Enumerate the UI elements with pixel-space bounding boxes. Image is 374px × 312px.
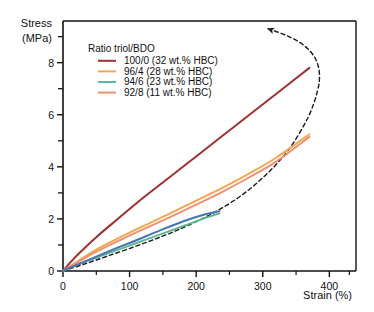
y-tick-label: 2 [48,213,54,225]
y-axis-title-line2: (MPa) [22,32,52,44]
series-curve-94-6-23-wt-hbc [63,213,219,271]
y-tick-label: 4 [48,161,54,173]
legend-title: Ratio triol/BDO [88,43,155,54]
y-axis-title-line1: Stress [21,17,53,29]
legend-label: 94/6 (23 wt.% HBC) [124,76,212,87]
stress-strain-chart: 024680100200300400Stress(MPa)Strain (%)R… [0,0,374,312]
y-tick-label: 0 [48,265,54,277]
series-curve-100-0-32-wt-hbc [63,68,309,271]
x-tick-label: 100 [121,280,139,292]
x-tick-label: 200 [187,280,205,292]
legend-label: 96/4 (28 wt.% HBC) [124,66,212,77]
x-tick-label: 0 [60,280,66,292]
legend-label: 100/0 (32 wt.% HBC) [124,55,218,66]
y-tick-label: 6 [48,109,54,121]
chart-canvas: 024680100200300400Stress(MPa)Strain (%)R… [0,0,374,312]
x-tick-label: 300 [254,280,272,292]
legend-label: 92/8 (11 wt.% HBC) [124,87,212,98]
x-axis-title: Strain (%) [303,289,352,301]
y-tick-label: 8 [48,57,54,69]
series-curve-92-8-11-wt-hbc [63,137,309,271]
